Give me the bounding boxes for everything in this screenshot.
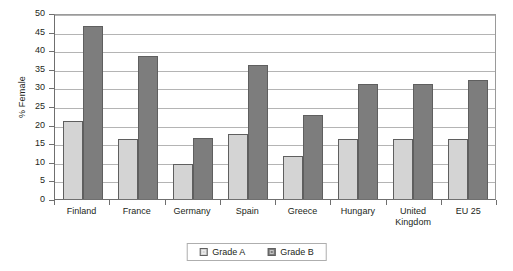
category-axis-tick: [330, 200, 331, 205]
bar[interactable]: [283, 156, 303, 199]
bar-group: [110, 15, 165, 199]
y-axis-tick-label: 35: [5, 64, 45, 74]
category-axis-tick: [54, 200, 55, 205]
bar[interactable]: [338, 139, 358, 199]
y-axis-tick-label: 25: [5, 101, 45, 111]
legend-label: Grade A: [212, 247, 245, 257]
category-axis-tick: [496, 200, 497, 205]
x-axis-label: Hungary: [330, 206, 385, 228]
plot-area: [54, 14, 496, 200]
bar[interactable]: [138, 56, 158, 199]
bar-group: [330, 15, 385, 199]
category-axis-tick: [386, 200, 387, 205]
bar-chart: % Female 50454035302520151050 FinlandFra…: [0, 0, 513, 271]
legend-swatch-icon: [199, 248, 207, 256]
category-axis-tick: [165, 200, 166, 205]
y-axis-tick-label: 0: [5, 194, 45, 204]
legend-item[interactable]: Grade B: [267, 247, 314, 257]
y-axis-tick-label: 20: [5, 120, 45, 130]
bar[interactable]: [358, 84, 378, 199]
legend-swatch-icon: [267, 248, 275, 256]
category-axis-tick: [109, 200, 110, 205]
bar[interactable]: [63, 121, 83, 199]
category-axis-tick: [441, 200, 442, 205]
bar[interactable]: [448, 139, 468, 199]
x-axis-label: United Kingdom: [386, 206, 441, 228]
y-axis-tick-label: 5: [5, 175, 45, 185]
y-axis-tick-label: 30: [5, 82, 45, 92]
bar-groups: [55, 15, 495, 199]
x-axis-label: Spain: [220, 206, 275, 228]
bar-group: [275, 15, 330, 199]
bar[interactable]: [468, 80, 488, 199]
bar-group-bars: [385, 15, 440, 199]
x-axis-label: Finland: [54, 206, 109, 228]
bar-group-bars: [165, 15, 220, 199]
y-axis-ticks: 50454035302520151050: [0, 14, 54, 200]
bar[interactable]: [83, 26, 103, 199]
bar[interactable]: [303, 115, 323, 199]
bar[interactable]: [118, 139, 138, 199]
bar-group-bars: [440, 15, 495, 199]
bar-group-bars: [110, 15, 165, 199]
y-axis-tick-label: 15: [5, 138, 45, 148]
bar-group-bars: [55, 15, 110, 199]
x-axis-label: France: [109, 206, 164, 228]
bar[interactable]: [193, 138, 213, 199]
bar-group: [440, 15, 495, 199]
y-axis-tick-label: 40: [5, 45, 45, 55]
bar-group-bars: [330, 15, 385, 199]
legend-label: Grade B: [280, 247, 314, 257]
x-axis-label: Greece: [275, 206, 330, 228]
category-axis-tick: [220, 200, 221, 205]
bar-group: [220, 15, 275, 199]
x-axis-labels: FinlandFranceGermanySpainGreeceHungaryUn…: [54, 206, 496, 228]
legend-item[interactable]: Grade A: [199, 247, 245, 257]
bar-group: [55, 15, 110, 199]
chart-legend: Grade AGrade B: [186, 243, 327, 261]
bar[interactable]: [393, 139, 413, 199]
bar[interactable]: [248, 65, 268, 199]
bar-group-bars: [275, 15, 330, 199]
x-axis-label: Germany: [165, 206, 220, 228]
y-axis-tick-label: 45: [5, 27, 45, 37]
y-axis-tick-label: 50: [5, 8, 45, 18]
y-axis-tick-label: 10: [5, 157, 45, 167]
category-axis-tick: [275, 200, 276, 205]
bar-group: [385, 15, 440, 199]
bar[interactable]: [173, 164, 193, 199]
bar-group-bars: [220, 15, 275, 199]
bar-group: [165, 15, 220, 199]
bar[interactable]: [228, 134, 248, 199]
category-axis-ticks: [54, 200, 496, 205]
bar[interactable]: [413, 84, 433, 199]
x-axis-label: EU 25: [441, 206, 496, 228]
